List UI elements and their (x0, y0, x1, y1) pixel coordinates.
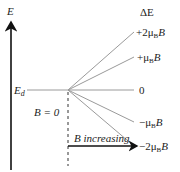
level-label-minus1: −μBB (139, 116, 163, 130)
split-line-minus1 (68, 90, 134, 122)
energy-axis-label: E (6, 5, 14, 17)
zeeman-splitting-diagram: E Ed ΔE +2μBB +μBB 0 −μBB −2μBB B = 0 B … (0, 0, 180, 172)
field-increasing-label: B increasing (74, 132, 130, 144)
split-lines (68, 32, 134, 146)
split-line-plus1 (68, 57, 134, 90)
level-label-plus1: +μBB (137, 51, 161, 65)
delta-e-label: ΔE (140, 6, 154, 18)
split-line-plus2 (68, 32, 134, 90)
degenerate-level-label: Ed (13, 84, 26, 98)
level-label-plus2: +2μBB (136, 26, 165, 40)
level-label-minus2: −2μBB (139, 140, 168, 154)
zero-field-label: B = 0 (34, 106, 60, 118)
level-label-zero: 0 (139, 84, 145, 96)
